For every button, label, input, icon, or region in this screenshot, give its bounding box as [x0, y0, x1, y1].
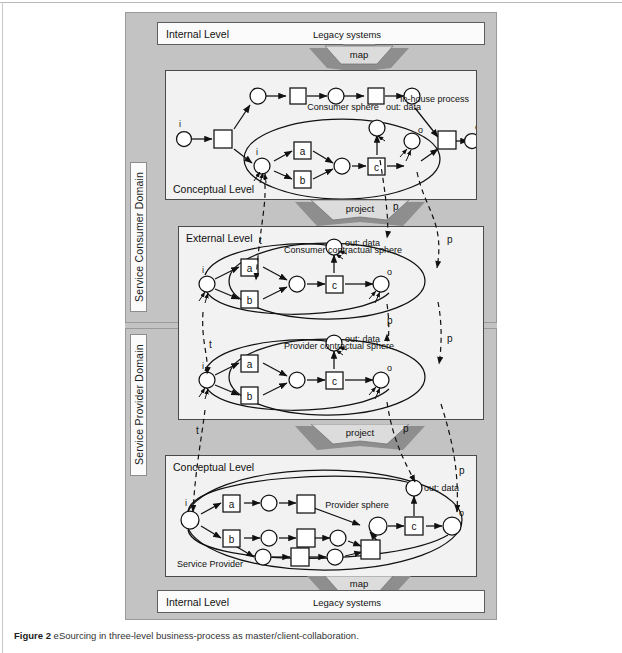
figure-canvas: Service Consumer Domain Service Provider…: [125, 12, 497, 620]
consumer-sphere-label: Consumer sphere: [301, 101, 385, 113]
level-box-provider-internal: Internal Level Legacy systems: [157, 590, 485, 613]
page-left-rule: [2, 2, 3, 653]
ext-consumer-label-b: b: [247, 295, 253, 306]
transition-label-map-top: map: [303, 49, 415, 60]
panel-provider-conceptual: a b c i o Provider sphere out: data Conc…: [165, 455, 477, 577]
external-level-title: External Level: [186, 232, 253, 244]
ext-provider-label-a: a: [247, 359, 253, 370]
figure-caption: Figure 2 eSourcing in three-level busine…: [14, 630, 614, 641]
ext-provider-label-i: i: [202, 361, 204, 371]
provider-conceptual-out-label: out: data: [424, 483, 459, 493]
prov-label-a: a: [229, 499, 235, 510]
prov-label-c: c: [412, 521, 417, 532]
provider-internal-subtitle: Legacy systems: [313, 597, 381, 608]
figure-caption-label: Figure 2: [14, 630, 51, 641]
ext-consumer-label-i: i: [202, 265, 204, 275]
provider-conceptual-footer: Service Provider: [177, 559, 243, 569]
external-provider-out-label: out: data: [345, 334, 380, 344]
node-label-o-sphere: o: [418, 125, 423, 135]
consumer-internal-subtitle: Legacy systems: [313, 29, 381, 40]
node-label-i-start: i: [179, 119, 181, 129]
ext-consumer-label-o: o: [387, 267, 392, 277]
ext-consumer-label-a: a: [247, 263, 253, 274]
domain-label-provider-text: Service Provider Domain: [133, 345, 145, 466]
ext-provider-label-c: c: [332, 376, 337, 387]
page-top-rule: [0, 2, 622, 3]
node-label-i-sphere: i: [256, 147, 258, 157]
figure-root: Service Consumer Domain Service Provider…: [0, 0, 622, 653]
consumer-conceptual-title: Conceptual Level: [173, 183, 254, 195]
provider-internal-title: Internal Level: [166, 596, 229, 608]
consumer-conceptual-net: a b c i i o o: [166, 71, 477, 200]
transition-arrow-map-top: map: [303, 44, 415, 72]
external-consumer-out-label: out: data: [345, 238, 380, 248]
figure-caption-text: eSourcing in three-level business-proces…: [54, 630, 359, 641]
ext-provider-label-b: b: [247, 391, 253, 402]
prov-label-i: i: [185, 498, 187, 508]
domain-label-consumer-text: Service Consumer Domain: [133, 172, 145, 302]
ext-provider-label-o: o: [387, 363, 392, 373]
consumer-internal-title: Internal Level: [166, 28, 229, 40]
domain-label-service-consumer: Service Consumer Domain: [130, 162, 147, 312]
node-label-c: c: [374, 162, 379, 173]
prov-label-b: b: [229, 534, 235, 545]
transition-arrow-project-bottom: project: [295, 424, 425, 452]
level-box-consumer-internal: Internal Level Legacy systems: [157, 22, 485, 45]
domain-label-service-provider: Service Provider Domain: [130, 334, 147, 476]
provider-conceptual-title: Conceptual Level: [173, 461, 254, 473]
transition-label-project-top: project: [295, 203, 425, 214]
transition-arrow-project-top: project: [295, 200, 425, 228]
prov-label-o: o: [459, 508, 464, 518]
consumer-inhouse-note: In-house process: [400, 93, 466, 105]
transition-label-project-bottom: project: [295, 427, 425, 438]
transition-label-map-bottom: map: [303, 578, 415, 589]
node-label-a: a: [300, 146, 306, 157]
node-label-b: b: [300, 175, 306, 186]
panel-consumer-conceptual: a b c i i o o: [165, 70, 477, 200]
panel-external-level: a b c i o: [178, 226, 484, 420]
provider-sphere-label: Provider sphere: [311, 500, 403, 510]
ext-consumer-label-c: c: [332, 280, 337, 291]
node-label-o-end: o: [475, 122, 477, 132]
